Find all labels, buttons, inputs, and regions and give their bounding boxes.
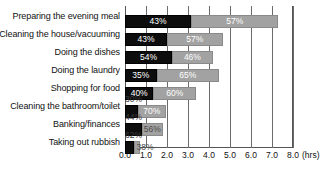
bar-row: 43%57% <box>125 33 293 46</box>
bar-row: 43%57% <box>125 15 293 28</box>
x-tick-7.0: 7.0 <box>266 149 278 161</box>
bar-value-label-b: 65% <box>157 69 220 82</box>
bar-value-label-a: 43% <box>125 33 167 46</box>
bar-row: 30%70% <box>125 105 293 118</box>
x-tick-1.0: 1.0 <box>140 149 152 161</box>
bar-value-label-a: 43% <box>125 15 191 28</box>
category-label-3: Doing the laundry <box>51 65 120 75</box>
category-label-0: Preparing the evening meal <box>13 11 120 21</box>
bar-row: 40%60% <box>125 87 293 100</box>
x-tick-5.0: 5.0 <box>224 149 236 161</box>
bar-value-label-a: 35% <box>125 69 157 82</box>
x-axis-tick-labels: 0.01.02.03.04.05.06.07.08.0(hrs) <box>125 149 293 163</box>
x-axis-unit-label: (hrs) <box>302 149 319 161</box>
category-label-4: Shopping for food <box>51 83 120 93</box>
x-tick-3.0: 3.0 <box>182 149 194 161</box>
plot-area: 43%57%43%57%54%46%35%65%40%60%30%70%44%5… <box>125 6 293 148</box>
stacked-bar-chart: Preparing the evening meal Cleaning the … <box>0 0 323 177</box>
gridline-8.0 <box>293 6 294 148</box>
bar-value-label-b: 57% <box>167 33 223 46</box>
category-label-7: Taking out rubbish <box>49 137 120 147</box>
bar-value-label-b: 56% <box>144 123 161 136</box>
bar-value-label-b: 57% <box>191 15 278 28</box>
bar-row: 44%56% <box>125 123 293 136</box>
x-tick-4.0: 4.0 <box>203 149 215 161</box>
x-tick-0.0: 0.0 <box>119 149 131 161</box>
x-tick-2.0: 2.0 <box>161 149 173 161</box>
category-label-1: Cleaning the house/vacuuming <box>0 29 120 39</box>
category-label-2: Doing the dishes <box>55 47 120 57</box>
bar-value-label-b: 46% <box>172 51 212 64</box>
bar-value-label-b: 60% <box>153 87 196 100</box>
bar-value-label-a: 62% <box>125 130 142 141</box>
x-tick-8.0: 8.0 <box>287 149 299 161</box>
category-label-5: Cleaning the bathroom/toilet <box>10 101 120 111</box>
bar-value-label-a: 44% <box>125 112 142 123</box>
bar-value-label-a: 54% <box>125 51 172 64</box>
x-tick-6.0: 6.0 <box>245 149 257 161</box>
bar-row: 54%46% <box>125 51 293 64</box>
bar-value-label-a: 30% <box>125 94 142 105</box>
bar-row: 35%65% <box>125 69 293 82</box>
category-axis-labels: Preparing the evening meal Cleaning the … <box>0 0 123 148</box>
category-label-6: Banking/finances <box>53 119 120 129</box>
